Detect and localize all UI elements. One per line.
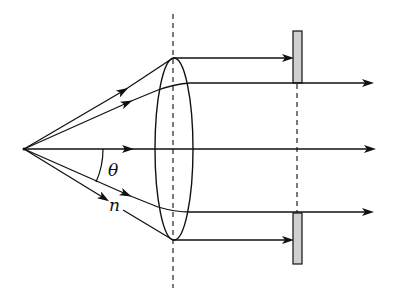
ray-bottom-marginal [24,149,288,240]
ray-upper [24,83,368,149]
ray-top-marginal [24,58,288,149]
lower-slab [293,213,302,264]
point-source [23,148,26,151]
angle-label-theta: θ [108,160,118,180]
angle-arc [96,149,103,182]
lens-diagram: θ n [0,0,394,298]
ray-label-n: n [109,195,120,215]
upper-slab [293,31,302,83]
